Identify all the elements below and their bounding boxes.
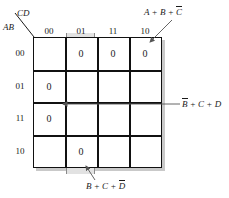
annotation-right: B + C + D — [182, 98, 221, 109]
annotation-top-overline: C — [176, 6, 182, 17]
corner-slash — [15, 13, 34, 37]
leader-line-bottom — [86, 166, 95, 180]
annotation-bottom: B + C + D — [86, 180, 125, 191]
leader-line-top — [150, 20, 172, 42]
annotation-right-overline: B — [182, 98, 188, 109]
annotation-top-prefix: A + B + — [144, 7, 176, 17]
kmap-diagram: 00 01 11 10 00 01 11 10 CD AB 0 0 0 0 0 … — [0, 0, 229, 198]
annotation-bottom-overline: D — [119, 180, 126, 191]
annotation-bottom-prefix: B + C + — [86, 181, 119, 191]
annotation-right-suffix: + C + D — [188, 99, 222, 109]
annotation-top: A + B + C — [144, 6, 182, 17]
